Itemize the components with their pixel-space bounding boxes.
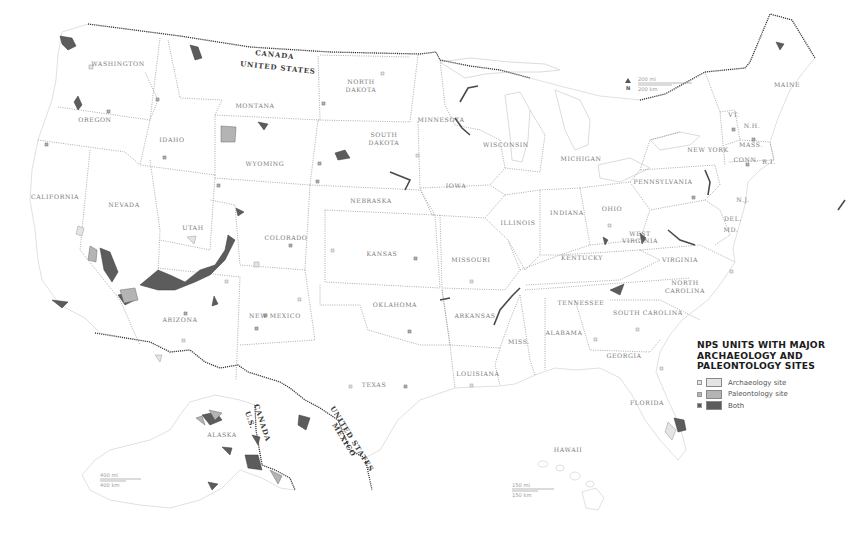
scale-km-conus: 200 km [638, 86, 658, 92]
state-label-alabama: ALABAMA [544, 329, 582, 336]
state-label-iowa: IOWA [446, 182, 466, 189]
state-label-north-dakota-2: DAKOTA [346, 86, 377, 93]
state-label-arizona: ARIZONA [161, 316, 197, 323]
legend-label-paleontology: Paleontology site [728, 390, 788, 398]
state-label-west-virginia-1: WEST [629, 230, 651, 237]
state-label-georgia: GEORGIA [606, 352, 641, 359]
state-label-south-carolina: SOUTH CAROLINA [613, 309, 683, 316]
state-label-hawaii: HAWAII [554, 446, 583, 453]
state-label-indiana: INDIANA [550, 209, 584, 216]
state-label-virginia: VIRGINIA [661, 256, 698, 263]
both-dot-icon [697, 403, 702, 408]
state-label-minnesota: MINNESOTA [417, 116, 464, 123]
state-label-vermont: VT. [727, 111, 739, 118]
state-label-washington: WASHINGTON [91, 60, 145, 67]
state-label-colorado: COLORADO [265, 234, 308, 241]
legend-item-archaeology: Archaeology site [697, 377, 855, 389]
scale-bar-hawaii: 150 mi 150 km [512, 482, 554, 498]
state-label-new-york: NEW YORK [687, 146, 729, 153]
scale-miles-conus: 200 mi [638, 76, 656, 82]
state-label-idaho: IDAHO [159, 136, 184, 143]
north-label: N [626, 85, 630, 91]
state-label-utah: UTAH [182, 224, 203, 231]
state-label-south-dakota-2: DAKOTA [369, 139, 400, 146]
state-label-kansas: KANSAS [367, 250, 398, 257]
legend-item-both: Both [697, 400, 855, 412]
legend-title: NPS UNITS WITH MAJOR ARCHAEOLOGY AND PAL… [697, 340, 855, 372]
state-label-nevada: NEVADA [108, 201, 139, 208]
state-label-arkansas: ARKANSAS [453, 312, 495, 319]
state-label-new-mexico: NEW MEXICO [249, 312, 301, 319]
state-label-missouri: MISSOURI [451, 256, 490, 263]
north-arrow-icon [625, 78, 631, 83]
state-label-michigan: MICHIGAN [561, 155, 602, 162]
state-label-kentucky: KENTUCKY [561, 254, 603, 261]
state-label-maine: MAINE [774, 81, 800, 88]
state-label-florida: FLORIDA [630, 399, 664, 406]
scale-km-alaska: 400 km [100, 482, 120, 488]
scale-miles-alaska: 400 mi [100, 472, 118, 478]
paleontology-dot-icon [697, 392, 702, 397]
legend-label-both: Both [728, 402, 744, 410]
state-label-montana: MONTANA [235, 102, 274, 109]
state-label-california: CALIFORNIA [31, 193, 79, 200]
state-label-oklahoma: OKLAHOMA [373, 301, 417, 308]
state-label-ohio: OHIO [602, 205, 622, 212]
state-label-alaska: ALASKA [206, 431, 237, 438]
state-label-north-carolina-2: CAROLINA [665, 287, 705, 294]
state-label-connecticut: CONN. [733, 156, 758, 163]
state-label-west-virginia-2: VIRGINIA [621, 237, 658, 244]
scale-km-hawaii: 150 km [512, 492, 532, 498]
state-label-pennsylvania: PENNSYLVANIA [633, 178, 692, 185]
state-label-wyoming: WYOMING [246, 160, 285, 167]
state-label-mississippi: MISS. [508, 338, 530, 345]
state-label-rhode-island: R.I. [762, 158, 775, 165]
hawaii-islands [538, 461, 604, 510]
both-swatch-icon [706, 401, 722, 410]
state-label-nebraska: NEBRASKA [350, 197, 391, 204]
legend: NPS UNITS WITH MAJOR ARCHAEOLOGY AND PAL… [697, 340, 855, 411]
state-label-new-jersey: N.J. [736, 196, 749, 204]
legend-title-line-3: PALEONTOLOGY SITES [697, 361, 855, 372]
archaeology-dot-icon [697, 380, 702, 385]
state-label-north-dakota-1: NORTH [347, 78, 375, 85]
state-label-oregon: OREGON [78, 116, 111, 123]
state-label-texas: TEXAS [362, 381, 387, 388]
state-label-new-hampshire: N.H. [744, 122, 761, 129]
legend-item-paleontology: Paleontology site [697, 388, 855, 400]
state-label-delaware: DEL. [724, 215, 742, 222]
legend-label-archaeology: Archaeology site [728, 379, 786, 387]
legend-title-line-1: NPS UNITS WITH MAJOR [697, 340, 855, 351]
state-label-maryland: MD. [724, 226, 739, 233]
paleontology-swatch-icon [706, 390, 722, 399]
state-label-wisconsin: WISCONSIN [483, 141, 529, 148]
state-label-tennessee: TENNESSEE [558, 299, 605, 306]
state-label-massachusetts: MASS. [739, 141, 763, 148]
state-label-south-dakota-1: SOUTH [370, 131, 397, 138]
us-map: WASHINGTON OREGON CALIFORNIA IDAHO NEVAD… [0, 0, 855, 534]
scale-miles-hawaii: 150 mi [512, 482, 530, 488]
state-label-illinois: ILLINOIS [500, 219, 535, 226]
archaeology-swatch-icon [706, 378, 722, 387]
state-label-north-carolina-1: NORTH [671, 279, 699, 286]
state-label-louisiana: LOUISIANA [456, 370, 499, 377]
